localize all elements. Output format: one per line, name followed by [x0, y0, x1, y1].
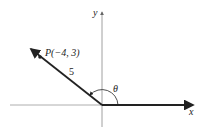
point-label: P(−4, 3)	[45, 48, 80, 58]
radius-label: 5	[69, 67, 74, 77]
diagram-canvas	[0, 0, 204, 136]
x-axis-label: x	[189, 107, 193, 117]
point-p	[38, 55, 42, 59]
y-axis-label: y	[93, 8, 97, 18]
angle-label: θ	[113, 84, 118, 94]
